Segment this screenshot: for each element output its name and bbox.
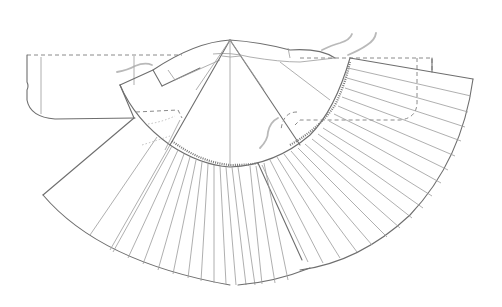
radial-lines [170,40,330,167]
center-fold [238,163,310,285]
right-pleated-panel [270,58,473,270]
yoke-arc [120,58,350,167]
squiggle-marks [117,33,376,148]
left-sleeve-panel [27,55,182,119]
construction-lines [136,58,432,150]
pattern-diagram [0,0,502,307]
